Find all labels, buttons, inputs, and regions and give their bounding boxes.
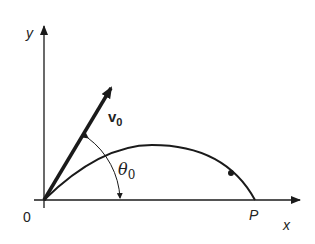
trajectory-curve [44, 145, 255, 200]
projectile-point [228, 170, 234, 176]
angle-label-sub: 0 [128, 168, 136, 182]
velocity-label-sub: 0 [116, 116, 122, 128]
angle-label-main: θ [118, 160, 128, 179]
y-axis-label: y [25, 25, 34, 41]
velocity-label: v0 [108, 108, 122, 128]
landing-point-label: P [249, 207, 259, 223]
angle-arc [88, 138, 120, 198]
origin-label: 0 [23, 209, 31, 225]
angle-label: θ0 [118, 160, 135, 182]
x-axis-label: x [282, 217, 291, 233]
projectile-diagram: y x 0 P v0 θ0 [0, 0, 315, 244]
velocity-vector-arrow [44, 88, 111, 200]
